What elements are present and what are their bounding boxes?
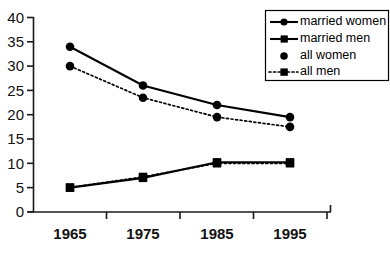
y-tick-label: 15 bbox=[7, 130, 24, 147]
data-point-square bbox=[286, 159, 294, 167]
y-tick-label: 20 bbox=[7, 106, 24, 123]
y-tick-label: 35 bbox=[7, 33, 24, 50]
x-tick-label: 1985 bbox=[200, 225, 233, 242]
y-tick-label: 25 bbox=[7, 82, 24, 99]
x-tick-label: 1995 bbox=[273, 225, 306, 242]
data-point-circle bbox=[286, 113, 295, 122]
data-point-square bbox=[213, 159, 221, 167]
legend-label: all men bbox=[300, 64, 340, 78]
circle-marker-icon bbox=[280, 52, 288, 60]
data-point-circle bbox=[139, 93, 148, 102]
y-tick-label: 40 bbox=[7, 9, 24, 26]
y-tick-label: 0 bbox=[16, 203, 24, 220]
data-point-circle bbox=[66, 62, 75, 71]
y-tick-label: 10 bbox=[7, 155, 24, 172]
legend-label: married women bbox=[300, 14, 386, 28]
y-tick-label: 30 bbox=[7, 57, 24, 74]
line-chart: 40 35 30 25 20 15 10 5 0 1965 1975 1985 … bbox=[0, 0, 390, 258]
data-point-square bbox=[66, 183, 74, 191]
chart-svg: 40 35 30 25 20 15 10 5 0 1965 1975 1985 … bbox=[0, 0, 390, 258]
data-point-circle bbox=[286, 123, 295, 132]
data-point-square bbox=[139, 173, 147, 181]
x-tick-label: 1975 bbox=[126, 225, 159, 242]
legend: married women married men all women all … bbox=[266, 11, 389, 81]
data-point-circle bbox=[213, 113, 222, 122]
circle-marker-icon bbox=[280, 18, 287, 25]
data-point-circle bbox=[213, 101, 222, 110]
y-tick-label: 5 bbox=[16, 179, 24, 196]
legend-label: all women bbox=[300, 48, 356, 62]
x-tick-label: 1965 bbox=[53, 225, 86, 242]
square-marker-icon bbox=[281, 35, 288, 42]
data-point-circle bbox=[139, 81, 148, 90]
legend-label: married men bbox=[300, 31, 370, 45]
data-point-circle bbox=[66, 42, 75, 51]
square-marker-icon bbox=[280, 68, 287, 75]
